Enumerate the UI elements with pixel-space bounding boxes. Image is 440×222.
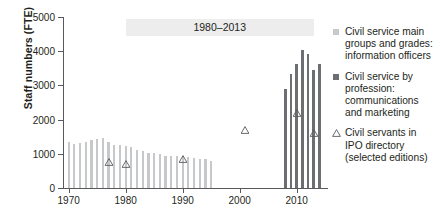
bar — [68, 142, 70, 188]
bar — [284, 89, 287, 188]
legend-item-label: and marketing — [345, 107, 440, 119]
y-axis-line — [63, 17, 64, 188]
x-axis-line — [63, 188, 328, 189]
y-tick-mark — [58, 154, 63, 155]
y-tick-label: 5000 — [33, 12, 55, 23]
x-tick-mark — [297, 188, 298, 193]
y-tick-label: 1000 — [33, 148, 55, 159]
x-tick-label: 2000 — [229, 195, 251, 206]
triangle-marker — [104, 158, 113, 166]
legend-item[interactable]: Civil servants inIPO directory(selected … — [333, 127, 440, 164]
triangle-marker — [121, 160, 130, 168]
x-tick-mark — [240, 188, 241, 193]
bar — [301, 50, 304, 189]
bar — [170, 156, 172, 188]
bar — [73, 144, 75, 188]
legend-item-label: IPO directory — [345, 140, 440, 152]
bar — [290, 74, 293, 188]
bar — [193, 158, 195, 188]
x-tick-mark — [183, 188, 184, 193]
legend-item-label: Civil servants in — [345, 127, 440, 139]
legend-item-label: groups and grades: — [345, 38, 440, 50]
y-tick-label: 3000 — [33, 80, 55, 91]
y-tick-mark — [58, 188, 63, 189]
bar — [90, 140, 92, 188]
y-tick-label: 2000 — [33, 114, 55, 125]
bar — [113, 145, 115, 188]
legend-item-label: information officers — [345, 50, 440, 62]
range-band-label: 1980–2013 — [193, 19, 246, 36]
bar — [164, 156, 166, 188]
bar — [79, 143, 81, 188]
bar — [210, 161, 212, 188]
triangle-marker — [178, 155, 187, 163]
x-tick-label: 2010 — [286, 195, 308, 206]
triangle-marker — [292, 109, 301, 117]
y-tick-mark — [58, 120, 63, 121]
chart-figure: Staff numbers (FTE) 01000200030004000500… — [0, 0, 440, 222]
bar — [199, 159, 201, 188]
bar — [187, 157, 189, 188]
plot-area: 0100020003000400050001970198019902000201… — [63, 17, 328, 188]
bar — [153, 153, 155, 188]
bar — [136, 150, 138, 188]
triangle-marker — [309, 129, 318, 137]
swatch-light-icon — [333, 29, 339, 35]
bar — [142, 151, 144, 188]
legend-item-label: profession: — [345, 83, 440, 95]
legend-item-label: (selected editions) — [345, 152, 440, 164]
bar — [147, 153, 149, 188]
legend-item-label: Civil service by — [345, 71, 440, 83]
triangle-marker — [241, 126, 250, 134]
legend-item-label: communications — [345, 95, 440, 107]
x-tick-label: 1990 — [172, 195, 194, 206]
legend-item-label: Civil service main — [345, 26, 440, 38]
bar — [204, 159, 206, 188]
y-tick-label: 0 — [49, 183, 55, 194]
x-tick-mark — [126, 188, 127, 193]
bar — [307, 54, 310, 188]
y-tick-mark — [58, 85, 63, 86]
bar — [159, 154, 161, 188]
bar — [130, 147, 132, 188]
y-tick-mark — [58, 17, 63, 18]
x-tick-label: 1980 — [115, 195, 137, 206]
x-tick-label: 1970 — [58, 195, 80, 206]
bar — [85, 142, 87, 188]
x-tick-mark — [69, 188, 70, 193]
chart-legend: Civil service maingroups and grades:info… — [333, 26, 440, 172]
legend-item[interactable]: Civil service byprofession:communication… — [333, 71, 440, 120]
triangle-open-icon — [332, 128, 341, 136]
bar — [96, 139, 98, 188]
bar — [318, 64, 321, 188]
y-tick-mark — [58, 51, 63, 52]
legend-item[interactable]: Civil service maingroups and grades:info… — [333, 26, 440, 63]
y-tick-label: 4000 — [33, 46, 55, 57]
bar — [295, 64, 298, 188]
swatch-dark-icon — [333, 74, 339, 80]
